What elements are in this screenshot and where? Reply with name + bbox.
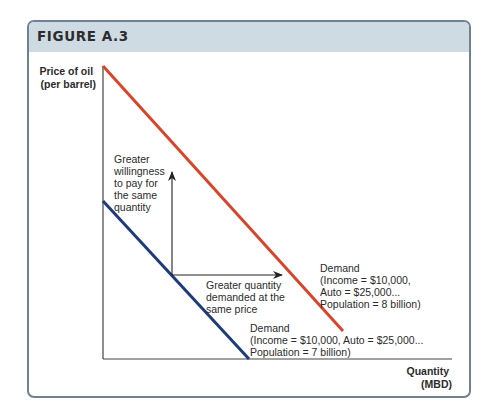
willingness-annotation: Greater willingness to pay for the same … bbox=[113, 153, 168, 213]
demand-8-billion-label: Demand (Income = $10,000, Auto = $25,000… bbox=[320, 262, 421, 310]
x-axis-label: Quantity (MBD) bbox=[406, 365, 452, 390]
demand-chart: Price of oil (per barrel) Quantity (MBD)… bbox=[0, 0, 497, 420]
quantity-demanded-annotation: Greater quantity demanded at the same pr… bbox=[206, 279, 288, 315]
y-axis-label: Price of oil (per barrel) bbox=[39, 65, 96, 90]
